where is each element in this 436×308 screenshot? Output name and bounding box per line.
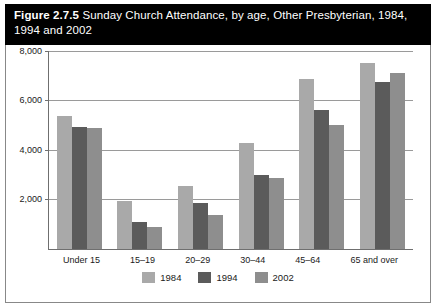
bar — [193, 203, 208, 249]
bar — [117, 201, 132, 249]
bar-group — [117, 52, 162, 249]
bar-group — [299, 52, 344, 249]
legend-item[interactable]: 1994 — [198, 272, 237, 283]
bar — [254, 175, 269, 249]
bar-group — [239, 52, 284, 249]
legend-item[interactable]: 1984 — [142, 272, 181, 283]
page-title: Figure 2.7.5 Sunday Church Attendance, b… — [14, 8, 422, 38]
y-axis-tick-label: 2,000 — [19, 194, 42, 204]
bar — [87, 128, 102, 249]
bar — [390, 73, 405, 249]
x-axis-tick-label: 15–19 — [130, 252, 155, 265]
bar — [329, 125, 344, 249]
y-axis-tick-label: 4,000 — [19, 145, 42, 155]
legend-item[interactable]: 2002 — [255, 272, 294, 283]
bar — [72, 127, 87, 249]
y-axis-tick-label: 6,000 — [19, 95, 42, 105]
legend-label: 1984 — [160, 272, 181, 283]
bar-group — [57, 52, 102, 249]
figure-title-bar: Figure 2.7.5 Sunday Church Attendance, b… — [5, 4, 431, 45]
legend-swatch — [255, 272, 268, 283]
x-axis-tick-label: 65 and over — [350, 252, 398, 265]
y-axis-tick-label: 8,000 — [19, 46, 42, 56]
bar — [147, 227, 162, 249]
legend-label: 1994 — [216, 272, 237, 283]
bar — [239, 143, 254, 249]
bar — [360, 63, 375, 249]
bar-groups — [49, 52, 413, 249]
bar-group — [360, 52, 405, 249]
bar — [132, 222, 147, 249]
bar — [299, 79, 314, 249]
legend-label: 2002 — [273, 272, 294, 283]
bar — [178, 186, 193, 249]
chart-legend: 198419942002 — [0, 272, 436, 283]
bar — [314, 110, 329, 249]
chart-plot-area: 2,0004,0006,0008,000 — [48, 52, 413, 250]
x-axis-tick-label: 45–64 — [295, 252, 320, 265]
figure-number-label: Figure 2.7.5 — [14, 9, 79, 21]
bar — [269, 178, 284, 249]
bar — [375, 82, 390, 249]
x-axis-tick-label: 30–44 — [240, 252, 265, 265]
legend-swatch — [142, 272, 155, 283]
bar — [208, 215, 223, 249]
bar-group — [178, 52, 223, 249]
legend-swatch — [198, 272, 211, 283]
x-axis-labels: Under 1515–1920–2930–4445–6465 and over — [48, 252, 413, 268]
x-axis-tick-label: 20–29 — [185, 252, 210, 265]
bar — [57, 116, 72, 249]
x-axis-tick-label: Under 15 — [63, 252, 100, 265]
figure-container: Figure 2.7.5 Sunday Church Attendance, b… — [0, 0, 436, 308]
